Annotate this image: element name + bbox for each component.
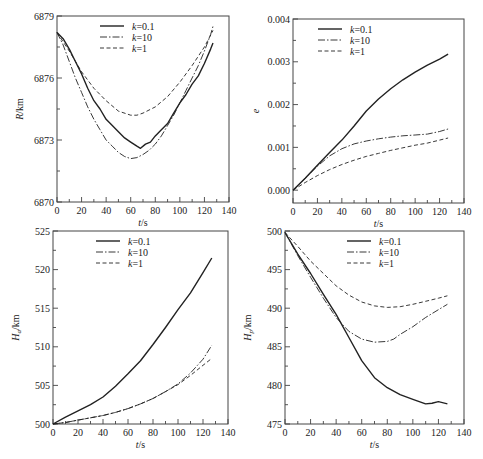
y-tick-label: 490 <box>267 303 282 314</box>
legend-label: k=0.1 <box>132 21 155 32</box>
y-tick-label: 6870 <box>34 197 54 208</box>
x-tick-label: 120 <box>431 427 446 438</box>
legend-label: k=10 <box>350 35 370 46</box>
legend-label: k=10 <box>132 32 152 43</box>
y-axis-label: e <box>250 108 261 113</box>
x-tick-label: 80 <box>386 206 396 217</box>
y-tick-label: 0.002 <box>268 99 291 110</box>
x-tick-label: 20 <box>73 427 83 438</box>
x-tick-label: 40 <box>98 427 108 438</box>
x-tick-label: 40 <box>337 206 347 217</box>
chart-bottom-left: 020406080100120140500505510515520525t/sH… <box>10 226 236 451</box>
y-axis-label: Ha/km <box>10 314 23 342</box>
x-tick-label: 0 <box>51 427 56 438</box>
chart-top-left: 0204060801001201406870687368766879t/sR/k… <box>14 11 237 229</box>
legend-label: k=0.1 <box>128 236 151 247</box>
x-tick-label: 60 <box>361 206 371 217</box>
x-tick-label: 80 <box>148 427 158 438</box>
x-tick-label: 0 <box>291 206 296 217</box>
y-tick-label: 6879 <box>34 11 54 22</box>
x-tick-label: 0 <box>283 427 288 438</box>
y-tick-label: 485 <box>267 341 282 352</box>
series-line-k-0-1 <box>53 258 212 424</box>
x-tick-label: 60 <box>357 427 367 438</box>
y-axis-label: R/km <box>14 98 25 121</box>
x-tick-label: 60 <box>123 427 133 438</box>
chart-bottom-right: 020406080100120140475480485490495500t/sH… <box>242 226 472 451</box>
y-tick-label: 6873 <box>34 135 54 146</box>
series-line-k-0-1 <box>285 233 447 404</box>
x-tick-label: 120 <box>196 427 211 438</box>
legend-label: k=0.1 <box>350 24 373 35</box>
y-tick-label: 520 <box>35 264 50 275</box>
legend-label: k=1 <box>128 258 143 269</box>
y-tick-label: 505 <box>35 380 50 391</box>
series-line-k-10 <box>293 129 448 190</box>
x-tick-label: 120 <box>432 206 447 217</box>
x-tick-label: 80 <box>150 205 160 216</box>
chart-top-right: 0204060801001201400.0000.0010.0020.0030.… <box>250 14 472 230</box>
y-tick-label: 495 <box>267 264 282 275</box>
x-tick-label: 100 <box>408 206 423 217</box>
x-tick-label: 100 <box>405 427 420 438</box>
x-axis-label: t/s <box>370 439 380 450</box>
x-axis-label: t/s <box>374 218 384 229</box>
x-tick-label: 40 <box>101 205 111 216</box>
x-tick-label: 20 <box>77 205 87 216</box>
y-tick-label: 0.001 <box>268 142 291 153</box>
x-tick-label: 100 <box>171 427 186 438</box>
legend-label: k=1 <box>132 43 147 54</box>
series-line-k-10 <box>285 233 447 343</box>
y-tick-label: 510 <box>35 341 50 352</box>
series-line-k-1 <box>285 233 447 308</box>
legend-label: k=1 <box>379 258 394 269</box>
x-tick-label: 140 <box>221 427 236 438</box>
figure: 0204060801001201406870687368766879t/sR/k… <box>0 0 483 459</box>
x-tick-label: 120 <box>197 205 212 216</box>
x-tick-label: 40 <box>331 427 341 438</box>
y-axis-label: Hp/km <box>242 314 255 342</box>
x-tick-label: 20 <box>306 427 316 438</box>
y-tick-label: 515 <box>35 303 50 314</box>
x-tick-label: 20 <box>312 206 322 217</box>
x-tick-label: 140 <box>457 427 472 438</box>
plot-frame <box>285 231 464 424</box>
series-line-k-1 <box>293 138 448 190</box>
y-tick-label: 480 <box>267 380 282 391</box>
x-tick-label: 60 <box>126 205 136 216</box>
y-tick-label: 525 <box>35 226 50 237</box>
y-tick-label: 0.000 <box>268 185 291 196</box>
x-axis-label: t/s <box>138 217 148 228</box>
series-line-k-0-1 <box>293 54 448 190</box>
x-tick-label: 0 <box>55 205 60 216</box>
y-tick-label: 475 <box>267 419 282 430</box>
y-tick-label: 500 <box>267 226 282 237</box>
legend-label: k=1 <box>350 46 365 57</box>
x-tick-label: 80 <box>382 427 392 438</box>
y-tick-label: 500 <box>35 419 50 430</box>
y-tick-label: 0.003 <box>268 56 291 67</box>
x-tick-label: 140 <box>222 205 237 216</box>
x-axis-label: t/s <box>136 439 146 450</box>
legend-label: k=10 <box>128 247 148 258</box>
y-tick-label: 0.004 <box>268 14 291 25</box>
y-tick-label: 6876 <box>34 73 54 84</box>
x-tick-label: 100 <box>172 205 187 216</box>
legend-label: k=10 <box>379 247 399 258</box>
x-tick-label: 140 <box>457 206 472 217</box>
legend-label: k=0.1 <box>379 236 402 247</box>
